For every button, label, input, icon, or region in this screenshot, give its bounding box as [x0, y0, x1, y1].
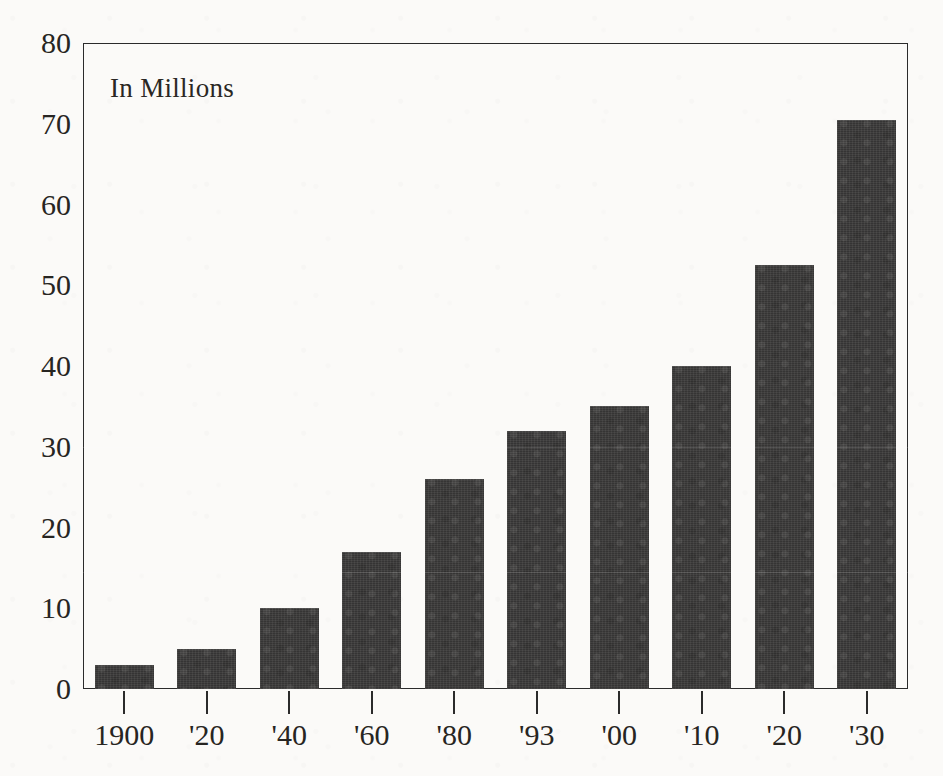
- y-axis-tick-label: 50: [41, 268, 71, 302]
- bar: [837, 120, 896, 689]
- x-axis-tick-mark: [371, 691, 373, 714]
- y-axis-tick-label: 60: [41, 188, 71, 222]
- x-axis-tick-mark: [783, 691, 785, 714]
- bar: [755, 265, 814, 689]
- x-axis-tick-label: '80: [437, 718, 472, 752]
- x-axis-tick-label: '20: [767, 718, 802, 752]
- x-axis-tick-label: '60: [354, 718, 389, 752]
- x-axis-tick-mark: [701, 691, 703, 714]
- x-axis-tick-mark: [536, 691, 538, 714]
- x-axis-tick-mark: [206, 691, 208, 714]
- bar: [425, 479, 484, 689]
- y-axis-tick-label: 40: [41, 349, 71, 383]
- x-axis-tick-mark: [866, 691, 868, 714]
- y-axis-tick-label: 30: [41, 430, 71, 464]
- bar: [260, 608, 319, 689]
- x-axis-tick-label: '93: [519, 718, 554, 752]
- x-axis-tick-mark: [123, 691, 125, 714]
- bar: [507, 431, 566, 689]
- bar: [672, 366, 731, 689]
- x-axis-tick-mark: [453, 691, 455, 714]
- y-axis-tick-label: 10: [41, 591, 71, 625]
- x-axis-tick-mark: [618, 691, 620, 714]
- bar: [590, 406, 649, 689]
- x-axis-tick-label: '00: [602, 718, 637, 752]
- y-axis-tick-label: 20: [41, 511, 71, 545]
- x-axis-tick-label: '20: [189, 718, 224, 752]
- bars-layer: [83, 43, 908, 689]
- x-axis-tick-label: 1900: [94, 718, 154, 752]
- bar: [95, 665, 154, 689]
- bar: [342, 552, 401, 689]
- y-axis: 01020304050607080: [0, 0, 71, 776]
- x-axis-tick-label: '40: [272, 718, 307, 752]
- x-axis-tick-label: '30: [849, 718, 884, 752]
- x-axis-tick-label: '10: [684, 718, 719, 752]
- bar-chart-figure: 01020304050607080 In Millions 1900'20'40…: [0, 0, 943, 776]
- y-axis-tick-label: 70: [41, 107, 71, 141]
- x-axis-tick-mark: [288, 691, 290, 714]
- y-axis-tick-label: 0: [56, 672, 71, 706]
- y-axis-tick-label: 80: [41, 26, 71, 60]
- bar: [177, 649, 236, 689]
